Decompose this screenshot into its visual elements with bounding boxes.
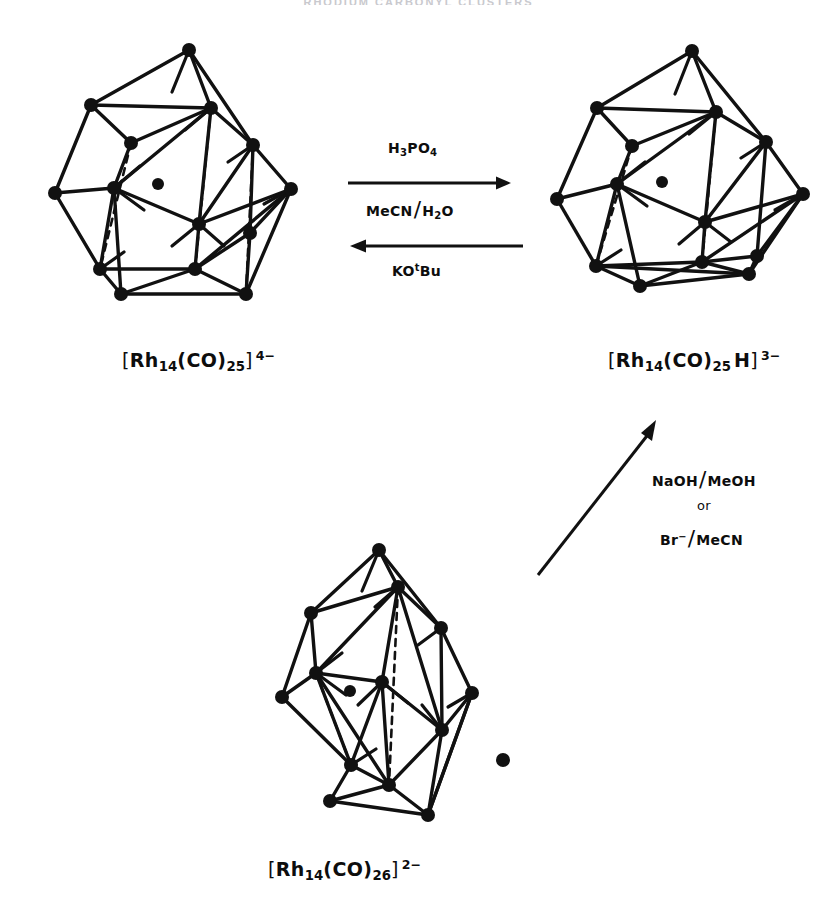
cluster-rh14-co25h-trianion [553, 34, 823, 319]
cluster-rh14-co25-tetraanion [52, 34, 312, 314]
scheme-page: RHODIUM CARBONYL CLUSTERS [0, 0, 837, 911]
cluster-drawing-top-right [553, 34, 823, 324]
reagent-label-or: or [697, 497, 711, 513]
running-head: RHODIUM CARBONYL CLUSTERS [0, 0, 837, 5]
formula-rh14-co25-tetraanion: [Rh14(CO)25]4− [122, 348, 275, 374]
interstitial-atom [656, 176, 668, 188]
reagent-label-h3po4: H3PO4 [388, 140, 437, 158]
cluster-drawing-bottom [258, 545, 508, 837]
reagent-label-mecn-h2o: MeCN/H2O [366, 196, 454, 221]
interstitial-atom [152, 178, 164, 190]
arrow-diagonal-conversion [530, 415, 665, 580]
interstitial-atom [344, 685, 356, 697]
cluster-drawing-top-left [52, 34, 312, 319]
cluster-rh14-co26-dianion [258, 545, 508, 835]
reagent-label-bromide-mecn: Br−/MeCN [660, 525, 743, 550]
arrow-reverse-deprotonation [348, 238, 523, 254]
reagent-label-kotbu: KOtBu [392, 262, 441, 279]
formula-rh14-co25h-trianion: [Rh14(CO)25H]3− [608, 348, 780, 374]
formula-rh14-co26-dianion: [Rh14(CO)26]2− [268, 857, 421, 883]
arrow-forward-protonation [348, 175, 513, 191]
metal-metal-edges [557, 51, 803, 286]
reagent-label-naoh-meoh: NaOH/MeOH [652, 466, 756, 491]
